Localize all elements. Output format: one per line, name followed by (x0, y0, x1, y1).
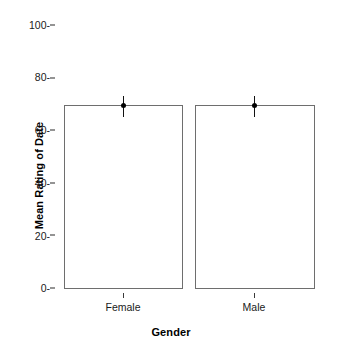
plot-area (0, 0, 342, 351)
x-tick-mark-female (123, 293, 124, 298)
y-tick-mark-60 (50, 130, 55, 131)
y-tick-mark-80 (50, 77, 55, 78)
bar-chart-figure: Mean Rating of Date 100- 80- 60- 40- 20-… (0, 0, 342, 351)
x-tick-label-male: Male (194, 301, 314, 313)
y-tick-mark-0 (50, 288, 55, 289)
y-tick-mark-100 (50, 25, 55, 26)
mean-marker-male (252, 103, 257, 108)
bar-female[interactable] (64, 105, 183, 289)
x-axis-title: Gender (0, 326, 342, 338)
y-tick-mark-40 (50, 182, 55, 183)
x-tick-label-female: Female (63, 301, 183, 313)
x-tick-mark-male (254, 293, 255, 298)
mean-marker-female (121, 103, 126, 108)
bar-male[interactable] (195, 105, 315, 289)
y-tick-mark-20 (50, 235, 55, 236)
